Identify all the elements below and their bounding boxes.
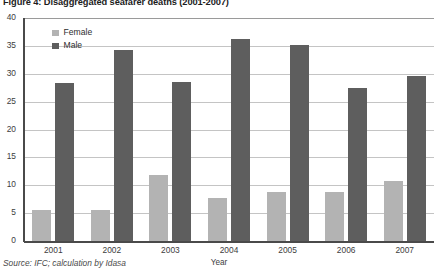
y-axis-tick-label: 0: [0, 236, 16, 245]
bar-male-2005: [290, 45, 309, 241]
x-axis-tick-label: 2004: [209, 245, 249, 256]
legend-swatch-male-icon: [52, 43, 59, 50]
y-axis-tick-label: 30: [0, 69, 16, 78]
source-note: Source: IFC; calculation by Idasa: [3, 258, 126, 269]
legend-swatch-female-icon: [52, 30, 59, 37]
y-axis-tick-label: 35: [0, 41, 16, 50]
x-axis-labels: 2001200220032004200520062007: [24, 245, 434, 257]
bar-female-2003: [149, 175, 168, 241]
bar-female-2007: [384, 181, 403, 241]
bar-female-2001: [32, 210, 51, 241]
x-axis-tick-label: 2007: [385, 245, 425, 256]
y-axis-line: [23, 18, 25, 242]
y-axis-labels: 0510152025303540: [0, 18, 16, 241]
bar-male-2007: [407, 76, 426, 241]
x-axis-tick-label: 2006: [326, 245, 366, 256]
bar-female-2004: [208, 198, 227, 241]
x-axis-tick-label: 2003: [150, 245, 190, 256]
legend-label-female: Female: [64, 27, 93, 39]
x-axis-tick-label: 2002: [92, 245, 132, 256]
x-axis-tick-label: 2001: [33, 245, 73, 256]
legend-item-female: Female: [52, 27, 92, 39]
y-axis-tick-label: 5: [0, 208, 16, 217]
chart-legend: Female Male: [52, 27, 92, 53]
y-axis-tick-label: 20: [0, 125, 16, 134]
figure-title: Figure 4: Disaggregated seafarer deaths …: [3, 0, 433, 8]
bar-male-2003: [172, 82, 191, 241]
legend-item-male: Male: [52, 40, 92, 52]
bar-female-2002: [91, 210, 110, 241]
bar-male-2004: [231, 39, 250, 241]
y-axis-tick-label: 40: [0, 13, 16, 22]
bar-male-2006: [348, 88, 367, 241]
y-axis-tick-label: 25: [0, 97, 16, 106]
bar-female-2006: [325, 192, 344, 241]
figure-container: Figure 4: Disaggregated seafarer deaths …: [0, 0, 438, 269]
bar-male-2002: [114, 50, 133, 241]
y-axis-tick-label: 10: [0, 180, 16, 189]
bar-male-2001: [55, 83, 74, 241]
legend-label-male: Male: [64, 40, 83, 52]
bar-female-2005: [267, 192, 286, 241]
y-axis-tick-label: 15: [0, 152, 16, 161]
x-axis-line: [24, 241, 434, 243]
x-axis-tick-label: 2005: [268, 245, 308, 256]
